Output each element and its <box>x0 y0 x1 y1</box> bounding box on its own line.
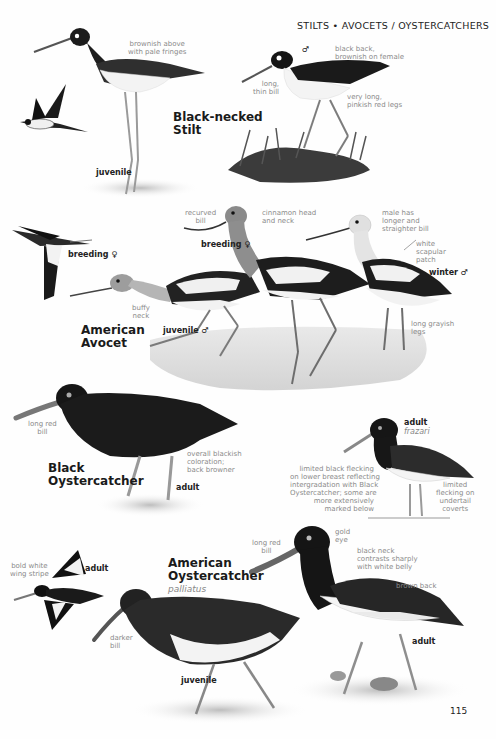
stilt-bill-note: long, thin bill <box>253 80 279 96</box>
note-line: neck <box>132 312 150 320</box>
note-line: pinkish red legs <box>347 101 402 109</box>
note-line: bill <box>28 428 57 436</box>
note-line: coverts <box>436 505 474 513</box>
frazari-age-label: adult <box>404 418 430 427</box>
section-header: STILTS • AVOCETS / OYSTERCATCHERS <box>297 20 489 31</box>
note-line: straighter bill <box>382 225 429 233</box>
avocet-breeding-tag: breeding ♀ <box>201 240 250 249</box>
ao-darker-bill-note: darker bill <box>110 634 133 650</box>
note-line: gold <box>335 528 350 536</box>
avocet-recurved-note: recurved bill <box>185 209 216 225</box>
note-line: limited black flecking <box>290 465 374 473</box>
note-line: cinnamon head <box>262 209 316 217</box>
note-line: bill <box>110 642 133 650</box>
species-title-american-oystercatcher: American Oystercatcher palliatus <box>168 557 264 596</box>
note-line: on lower breast reflecting <box>290 473 374 481</box>
note-line: bold white <box>10 562 49 570</box>
note-line: more extensively <box>290 497 374 505</box>
ao-back-note: brown back <box>396 582 436 590</box>
species-title-american-avocet: American Avocet <box>81 324 145 350</box>
note-line: bill <box>252 547 281 555</box>
avocet-flight-tag: breeding ♀ <box>68 250 117 259</box>
frazari-subspecies-label: frazari <box>404 427 430 436</box>
bo-coloration-note: overall blackish coloration; back browne… <box>187 450 242 474</box>
note-line: very long, <box>347 93 402 101</box>
avocet-winter-tag: winter ♂ <box>429 268 468 277</box>
note-line: patch <box>416 256 446 264</box>
note-line: recurved <box>185 209 216 217</box>
note-line: contrasts sharply <box>357 555 418 563</box>
ao-neck-note: black neck contrasts sharply with white … <box>357 547 418 571</box>
note-line: wing stripe <box>10 570 49 578</box>
note-line: intergradation with Black <box>290 481 374 489</box>
avocet-cinnamon-note: cinnamon head and neck <box>262 209 316 225</box>
frazari-flecking-note: limited black flecking on lower breast r… <box>290 465 374 513</box>
species-name-line2: Oystercatcher <box>48 475 144 488</box>
ao-flight-tag: adult <box>85 564 108 573</box>
species-name-line2: Stilt <box>173 124 263 137</box>
species-name-line2: Oystercatcher <box>168 570 264 583</box>
frazari-tag: adult frazari <box>404 418 430 436</box>
note-line: bill <box>185 217 216 225</box>
species-name-line2: Avocet <box>81 337 145 350</box>
note-line: darker <box>110 634 133 642</box>
species-title-black-necked-stilt: Black-necked Stilt <box>173 111 263 137</box>
ao-bill-note: long red bill <box>252 539 281 555</box>
avocet-scapular-note: white scapular patch <box>416 240 446 264</box>
male-symbol: ♂ <box>302 45 309 54</box>
note-line: with pale fringes <box>128 48 186 56</box>
note-line: white <box>416 240 446 248</box>
ao-eye-note: gold eye <box>335 528 350 544</box>
note-line: limited <box>436 481 474 489</box>
avocet-legs-note: long grayish legs <box>411 320 454 336</box>
note-line: longer and <box>382 217 429 225</box>
note-line: black neck <box>357 547 418 555</box>
avocet-male-bill-note: male has longer and straighter bill <box>382 209 429 233</box>
american-oystercatcher-juvenile-illustration <box>94 589 310 724</box>
note-line: long grayish <box>411 320 454 328</box>
note-line: long red <box>252 539 281 547</box>
stilt-back-note: black back, brownish on female <box>335 45 404 61</box>
field-guide-page: STILTS • AVOCETS / OYSTERCATCHERS Black-… <box>0 0 496 739</box>
note-line: with white belly <box>357 563 418 571</box>
note-line: and neck <box>262 217 316 225</box>
ao-adult-tag: adult <box>412 637 435 646</box>
note-line: black back, <box>335 45 404 53</box>
avocet-buffy-note: buffy neck <box>132 304 150 320</box>
note-line: eye <box>335 536 350 544</box>
ao-juvenile-tag: juvenile <box>181 676 217 685</box>
note-line: marked below <box>290 505 374 513</box>
avocet-juvenile-tag: juvenile ♂ <box>163 326 209 335</box>
avocet-flight-illustration <box>12 226 92 300</box>
note-line: brownish above <box>128 40 186 48</box>
species-subspecies: palliatus <box>168 583 264 596</box>
ao-wing-note: bold white wing stripe <box>10 562 49 578</box>
species-title-black-oystercatcher: Black Oystercatcher <box>48 462 144 488</box>
note-line: scapular <box>416 248 446 256</box>
bo-bill-note: long red bill <box>28 420 57 436</box>
note-line: coloration; <box>187 458 242 466</box>
stilt-flight-illustration <box>20 84 88 132</box>
stilt-juvenile-note: brownish above with pale fringes <box>128 40 186 56</box>
note-line: back browner <box>187 466 242 474</box>
note-line: long, <box>253 80 279 88</box>
note-line: undertail <box>436 497 474 505</box>
note-line: buffy <box>132 304 150 312</box>
stilt-legs-note: very long, pinkish red legs <box>347 93 402 109</box>
male-symbol-glyph: ♂ <box>302 45 309 54</box>
stilt-juvenile-tag: juvenile <box>96 168 132 177</box>
page-number: 115 <box>450 706 467 716</box>
note-line: flecking on <box>436 489 474 497</box>
note-line: thin bill <box>253 88 279 96</box>
note-line: long red <box>28 420 57 428</box>
note-line: overall blackish <box>187 450 242 458</box>
frazari-undertail-note: limited flecking on undertail coverts <box>436 481 474 513</box>
note-line: Oystercatcher; some are <box>290 489 374 497</box>
note-line: legs <box>411 328 454 336</box>
note-line: brownish on female <box>335 53 404 61</box>
note-line: male has <box>382 209 429 217</box>
bo-adult-tag: adult <box>176 483 199 492</box>
